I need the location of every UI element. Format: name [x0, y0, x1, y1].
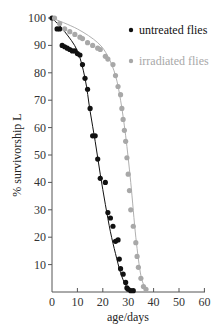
data-point [88, 106, 93, 111]
data-point [82, 76, 87, 81]
data-point [77, 52, 82, 57]
y-ticks: 102030405060708090100 [28, 11, 52, 272]
data-point [127, 188, 132, 193]
legend-label-untreated: untreated flies [139, 23, 208, 37]
y-tick-label: 10 [34, 258, 46, 272]
y-tick-label: 50 [34, 148, 46, 162]
data-point [117, 257, 122, 262]
survivorship-chart: 102030405060708090100 0102030405060 untr… [0, 0, 223, 333]
y-tick-label: 100 [28, 11, 46, 25]
data-point [52, 15, 57, 20]
y-tick-label: 90 [34, 38, 46, 52]
data-point [136, 265, 141, 270]
data-point [72, 32, 77, 37]
data-point [98, 176, 103, 181]
data-point [85, 87, 90, 92]
data-point [126, 172, 131, 177]
legend: untreated flies irradiated flies [129, 23, 209, 68]
data-point [95, 157, 100, 162]
legend-marker-irradiated [129, 59, 133, 63]
data-point [62, 26, 67, 31]
data-point [110, 62, 115, 67]
data-point [119, 106, 124, 111]
legend-marker-untreated [129, 28, 133, 32]
data-point [131, 288, 136, 293]
data-point [131, 224, 136, 229]
data-point [122, 128, 127, 133]
data-point [143, 287, 148, 292]
data-point [103, 180, 108, 185]
data-point [134, 254, 139, 259]
figure-caption-cutoff: ▬ ▬▬▬ ▬▬ [12, 327, 212, 333]
data-point [138, 276, 143, 281]
x-tick-label: 40 [148, 295, 160, 309]
data-point [115, 237, 120, 242]
data-point [123, 139, 128, 144]
x-tick-label: 10 [71, 295, 83, 309]
data-points [49, 15, 148, 293]
fit-curve-untreated [52, 18, 131, 291]
data-point [118, 92, 123, 97]
data-point [133, 240, 138, 245]
legend-label-irradiated: irradiated flies [139, 54, 209, 68]
y-tick-label: 20 [34, 230, 46, 244]
y-tick-label: 80 [34, 66, 46, 80]
x-axis-title: age/days [107, 310, 149, 324]
y-axis-title: % survivorship L [10, 113, 24, 196]
data-point [57, 26, 62, 31]
data-point [123, 280, 128, 285]
data-point [108, 215, 113, 220]
y-tick-label: 40 [34, 175, 46, 189]
data-point [57, 21, 62, 26]
x-tick-label: 50 [173, 295, 185, 309]
x-tick-label: 20 [97, 295, 109, 309]
x-tick-label: 30 [122, 295, 134, 309]
data-point [93, 133, 98, 138]
x-tick-label: 0 [49, 295, 55, 309]
y-tick-label: 70 [34, 93, 46, 107]
y-tick-label: 60 [34, 121, 46, 135]
data-point [105, 57, 110, 62]
fit-curves [52, 18, 146, 291]
data-point [121, 117, 126, 122]
fit-curve-irradiated [52, 18, 146, 289]
data-point [128, 207, 133, 212]
data-point [118, 266, 123, 271]
data-point [85, 40, 90, 45]
data-point [90, 43, 95, 48]
y-tick-label: 30 [34, 203, 46, 217]
data-point [121, 272, 126, 277]
data-point [113, 73, 118, 78]
data-point [67, 29, 72, 34]
data-point [110, 224, 115, 229]
data-point [80, 36, 85, 41]
data-point [105, 210, 110, 215]
data-point [80, 62, 85, 67]
data-point [115, 84, 120, 89]
data-point [124, 155, 129, 160]
x-tick-label: 60 [198, 295, 210, 309]
data-point [98, 47, 103, 52]
